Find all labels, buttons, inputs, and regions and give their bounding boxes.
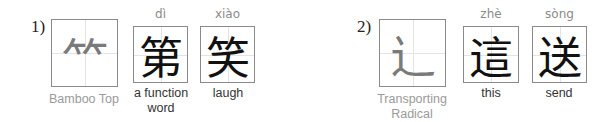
group-number: 2)	[357, 17, 371, 37]
radical-glyph: ⺮	[52, 20, 117, 86]
character-box: 這	[463, 26, 519, 83]
pinyin: dì	[133, 7, 188, 21]
pinyin: sòng	[532, 7, 587, 21]
pinyin: zhè	[463, 7, 519, 21]
character: 送	[533, 27, 586, 82]
character: 第	[134, 27, 187, 82]
radical-glyph: ⻌	[380, 20, 445, 86]
meaning: this	[455, 86, 527, 101]
pinyin: xiào	[200, 7, 255, 21]
character-box: 第	[133, 26, 188, 83]
character: 這	[464, 27, 518, 82]
group-number: 1)	[31, 17, 45, 37]
character-box: 送	[532, 26, 587, 83]
character: 笑	[201, 27, 254, 82]
radical-box: ⻌	[379, 19, 446, 87]
meaning: laugh	[192, 86, 264, 101]
radical-caption: Transporting Radical	[364, 92, 460, 122]
radical-box: ⺮	[51, 19, 118, 87]
radical-caption: Bamboo Top	[36, 92, 132, 107]
meaning: send	[523, 86, 595, 101]
character-box: 笑	[200, 26, 255, 83]
meaning: a function word	[125, 86, 197, 116]
